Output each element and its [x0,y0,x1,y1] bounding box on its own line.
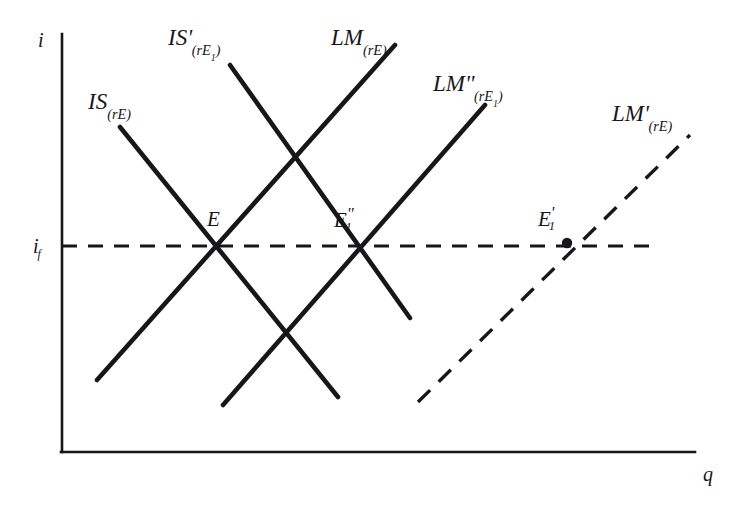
diagram-canvas [0,0,749,505]
curves-group [97,45,690,405]
is-prime-curve-label: IS'(rE1) [168,26,220,56]
is-prime-label-base: IS [168,25,187,50]
lm-prime-label-subscript: (rE) [648,118,672,134]
lm-double-prime-label-subscript: (rE1) [474,88,503,104]
is-label-base: IS [88,89,107,114]
lm-dp-sub-one: 1 [493,98,498,109]
is-lm-figure: i if q IS(rE) IS'(rE1) LM(rE) LM''(rE1) … [0,0,749,505]
is-label-subscript: (rE) [107,106,131,122]
e1-p-label-subscript: 1 [549,219,555,233]
y-tick-subscript: f [37,247,40,261]
lm-label-base: LM [331,25,363,50]
lm-sub-e: E [373,42,382,58]
is-prime-sub-e: E [202,42,211,58]
lm-double-prime-label-base: LM [433,71,465,96]
axes-group [61,34,695,452]
equilibrium-point-e1-double-prime-label: E''1 [334,206,360,231]
lm-prime-curve [418,135,690,402]
equilibrium-point-e-label: E [207,209,220,230]
is-prime-sub-one: 1 [211,52,216,63]
points-group [562,238,572,248]
lm-double-prime-label-prime: '' [465,71,474,96]
e-label-base: E [207,207,220,231]
y-axis-tick-label: if [33,236,42,256]
x-axis-label: q [703,464,713,484]
equilibrium-point-e1-prime-label: E'1 [538,205,560,230]
is-prime-curve [230,65,410,318]
e1-dp-label-subscript: 1 [346,220,352,234]
e1-dp-label-base: E [334,208,347,232]
is-prime-label-subscript: (rE1) [192,42,221,58]
is-sub-e: E [117,106,126,122]
is-prime-label-prime: ' [187,25,191,50]
lm-curve-label: LM(rE) [331,26,387,53]
equilibrium-point-e1-prime-marker [562,238,572,248]
lm-double-prime-curve-label: LM''(rE1) [433,72,503,102]
lm-prime-sub-e: E [659,118,668,134]
lm-double-prime-curve [223,105,485,405]
is-curve-label: IS(rE) [88,90,131,117]
lm-prime-curve-label: LM'(rE) [612,102,672,129]
lm-label-subscript: (rE) [363,42,387,58]
y-axis-label: i [38,30,44,50]
lm-dp-sub-e: E [484,88,493,104]
lm-prime-label-base: LM [612,101,644,126]
